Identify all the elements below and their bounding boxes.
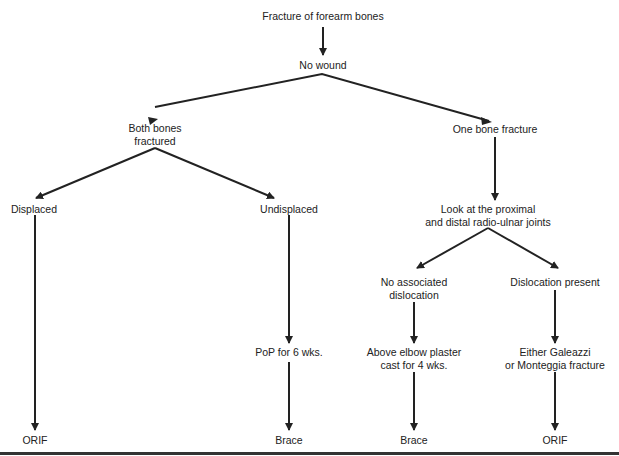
- node-one-bone: One bone fracture: [453, 123, 538, 136]
- node-look-line1: Look at the proximal: [425, 203, 551, 216]
- node-look-joints: Look at the proximal and distal radio-ul…: [425, 203, 551, 229]
- node-no-wound: No wound: [299, 59, 346, 72]
- node-either-line1: Either Galeazzi: [505, 346, 605, 359]
- node-both-bones-line2: fractured: [128, 135, 181, 148]
- node-above-elbow: Above elbow plaster cast for 4 wks.: [367, 346, 462, 372]
- bottom-divider: [0, 452, 619, 455]
- node-no-assoc-line1: No associated: [381, 276, 448, 289]
- node-dislocation-present: Dislocation present: [510, 276, 599, 289]
- node-brace-mid: Brace: [275, 434, 302, 447]
- node-root: Fracture of forearm bones: [262, 10, 383, 23]
- flowchart: Fracture of forearm bones No wound Both …: [0, 0, 619, 456]
- node-brace-right: Brace: [400, 434, 427, 447]
- node-no-associated: No associated dislocation: [381, 276, 448, 302]
- node-orif-left: ORIF: [22, 434, 47, 447]
- node-either: Either Galeazzi or Monteggia fracture: [505, 346, 605, 372]
- node-orif-right: ORIF: [542, 434, 567, 447]
- node-look-line2: and distal radio-ulnar joints: [425, 216, 551, 229]
- node-no-assoc-line2: dislocation: [381, 289, 448, 302]
- node-undisplaced: Undisplaced: [260, 203, 318, 216]
- node-displaced: Displaced: [11, 203, 57, 216]
- node-above-elbow-line2: cast for 4 wks.: [367, 359, 462, 372]
- node-pop: PoP for 6 wks.: [255, 346, 323, 359]
- node-above-elbow-line1: Above elbow plaster: [367, 346, 462, 359]
- node-both-bones: Both bones fractured: [128, 122, 181, 148]
- node-either-line2: or Monteggia fracture: [505, 359, 605, 372]
- node-both-bones-line1: Both bones: [128, 122, 181, 135]
